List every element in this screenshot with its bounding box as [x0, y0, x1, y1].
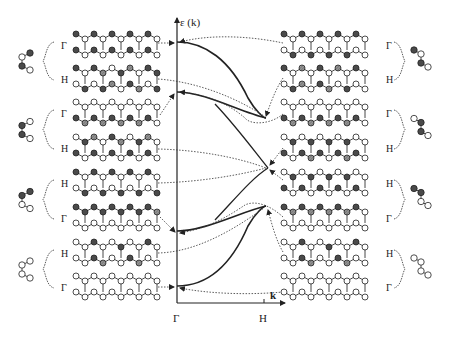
atom [362, 139, 368, 145]
atom [118, 36, 124, 42]
atom [344, 209, 350, 215]
atom [118, 190, 124, 196]
atom [118, 225, 124, 231]
atom [91, 99, 97, 105]
atom [299, 115, 305, 121]
atom [281, 65, 287, 71]
atom [91, 273, 97, 279]
atom [335, 255, 341, 261]
atom [308, 86, 314, 92]
atom [299, 31, 305, 37]
polymer-chain [281, 273, 368, 300]
left-unit-cell-motifs [19, 42, 54, 288]
atom [299, 204, 305, 210]
brace [394, 180, 405, 219]
atom [118, 244, 124, 250]
atom [82, 244, 88, 250]
atom [73, 81, 79, 87]
atom [281, 220, 287, 226]
atom [127, 220, 133, 226]
atom [127, 239, 133, 245]
atom [344, 139, 350, 145]
atom [335, 289, 341, 295]
axes: ε (k) k Γ H [173, 16, 285, 324]
motif-atom [19, 131, 25, 137]
atom [353, 31, 359, 37]
atom [73, 169, 79, 175]
atom [317, 65, 323, 71]
atom [308, 52, 314, 58]
left-row-label: Γ [61, 108, 67, 119]
brace [394, 250, 405, 288]
left-row-label: Γ [61, 40, 67, 51]
atom [317, 150, 323, 156]
atom [326, 36, 332, 42]
right-row-label: Γ [386, 40, 392, 51]
atom [308, 70, 314, 76]
brace [43, 42, 54, 80]
atom [100, 278, 106, 284]
brace [394, 110, 405, 149]
atom [145, 289, 151, 295]
atom [326, 104, 332, 110]
atom [317, 169, 323, 175]
unit-cell-motif [19, 258, 33, 281]
atom [73, 220, 79, 226]
atom [290, 52, 296, 58]
motif-atom [27, 258, 33, 264]
atom [299, 255, 305, 261]
atom [326, 139, 332, 145]
atom [353, 239, 359, 245]
motif-atom [27, 275, 33, 281]
atom [82, 36, 88, 42]
atom [136, 260, 142, 266]
motif-atom [411, 185, 417, 191]
polymer-chain [73, 273, 160, 300]
atom [109, 31, 115, 37]
unit-cell-motif [411, 47, 431, 70]
atom [127, 99, 133, 105]
right-row-label: H [386, 178, 393, 189]
atom [127, 255, 133, 261]
atom [73, 150, 79, 156]
atom [118, 52, 124, 58]
atom [109, 239, 115, 245]
atom [308, 294, 314, 300]
atom [154, 244, 160, 250]
atom [362, 86, 368, 92]
atom [154, 104, 160, 110]
atom [281, 31, 287, 37]
motif-atom [418, 259, 424, 265]
atom [362, 278, 368, 284]
atom [154, 174, 160, 180]
polymer-chain [281, 31, 368, 58]
motif-atom [411, 255, 417, 261]
atom [73, 99, 79, 105]
band-1-curve [177, 42, 266, 118]
atom [362, 52, 368, 58]
atom [73, 134, 79, 140]
atom [145, 31, 151, 37]
motif-atom [19, 122, 25, 128]
atom [326, 294, 332, 300]
atom [299, 273, 305, 279]
atom [154, 70, 160, 76]
atom [91, 289, 97, 295]
right-row-labels: ΓHΓHHΓHΓ [386, 40, 393, 293]
atom [317, 204, 323, 210]
atom [308, 36, 314, 42]
atom [281, 204, 287, 210]
atom [317, 185, 323, 191]
polymer-chain [73, 204, 160, 231]
polymer-chain [281, 204, 368, 231]
atom [118, 278, 124, 284]
motif-atom [411, 47, 417, 53]
atom [344, 225, 350, 231]
atom [127, 134, 133, 140]
atom [145, 169, 151, 175]
atom [317, 220, 323, 226]
atom [145, 255, 151, 261]
atom [299, 47, 305, 53]
atom [100, 244, 106, 250]
atom [362, 155, 368, 161]
